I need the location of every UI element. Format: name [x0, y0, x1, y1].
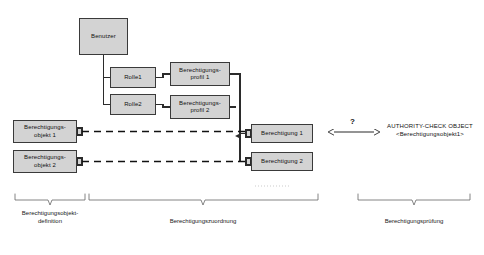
authority-check-annotation: AUTHORITY-CHECK OBJECT <Berechtigungsobj…	[376, 122, 484, 138]
stub-objekt2	[77, 158, 82, 165]
box-rolle1[interactable]: Rolle1	[110, 67, 156, 88]
bracket-zuordnung-path	[89, 194, 318, 205]
link-rolle2-profil2	[156, 105, 170, 108]
box-berechtigungsobjekt-2[interactable]: Berechtigungs- objekt 2	[13, 150, 77, 173]
box-berechtigung-2[interactable]: Berechtigung 2	[251, 152, 313, 171]
bracket-definition-path	[15, 194, 85, 205]
box-berechtigung-1[interactable]: Berechtigung 1	[251, 124, 313, 143]
link-profil1-trunk	[230, 74, 240, 162]
bracket-pruefung-path	[358, 194, 470, 205]
diagram-canvas: Benutzer Rolle1 Rolle2 Berechtigungs- pr…	[0, 0, 484, 255]
box-rolle2[interactable]: Rolle2	[110, 94, 156, 115]
box-berechtigungsprofil-1[interactable]: Berechtigungs- profil 1	[170, 62, 230, 86]
box-berechtigungsobjekt-1[interactable]: Berechtigungs- objekt 1	[13, 120, 77, 143]
question-mark-label: ?	[350, 117, 355, 126]
link-rolle1-profil1	[156, 74, 170, 78]
box-berechtigungsprofil-2[interactable]: Berechtigungs- profil 2	[170, 95, 230, 119]
caption-berechtigungsobjektdefinition: Berechtigungsobjekt- definition	[5, 210, 95, 225]
caption-berechtigungszuordnung: Berechtigungszuordnung	[143, 218, 263, 226]
box-benutzer[interactable]: Benutzer	[79, 18, 128, 55]
bracket-group	[15, 194, 470, 205]
caption-berechtigungspruefung: Berechtigungsprüfung	[364, 218, 464, 226]
stub-objekt1	[77, 128, 82, 135]
